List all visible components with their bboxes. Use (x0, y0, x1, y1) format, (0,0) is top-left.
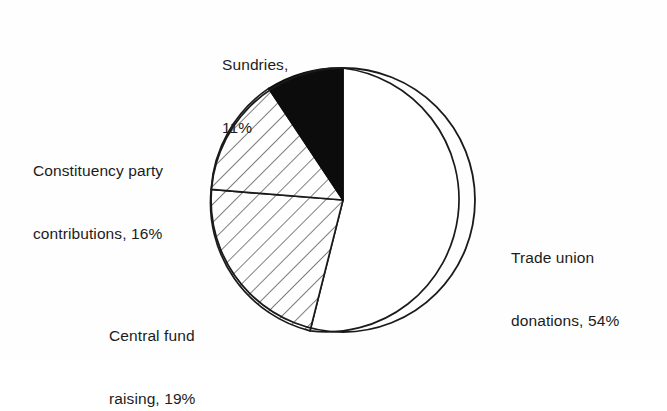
pie-label-sundries-line2: 11% (222, 117, 288, 138)
pie-label-central-fund-line2: raising, 19% (109, 388, 196, 409)
pie-label-trade-union-line2: donations, 54% (511, 310, 619, 331)
pie-label-central-fund-line1: Central fund (109, 325, 196, 346)
pie-label-central-fund: Central fund raising, 19% (109, 283, 196, 411)
pie-label-trade-union: Trade union donations, 54% (511, 205, 619, 373)
pie-label-sundries: Sundries, 11% (222, 12, 288, 180)
pie-label-constituency: Constituency party contributions, 16% (33, 118, 163, 286)
pie-label-sundries-line1: Sundries, (222, 54, 288, 75)
pie-label-constituency-line2: contributions, 16% (33, 223, 163, 244)
pie-label-trade-union-line1: Trade union (511, 247, 619, 268)
pie-label-constituency-line1: Constituency party (33, 160, 163, 181)
